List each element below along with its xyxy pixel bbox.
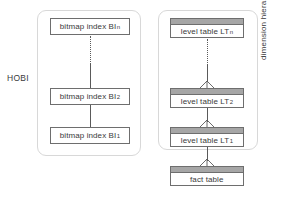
connector-solid-bitmap-2-to-1: [90, 105, 91, 127]
node-level-table-n[interactable]: level table LTn: [170, 18, 244, 38]
crows-foot-icon-fact-table: [199, 159, 215, 167]
crows-foot-icon-level-table-2: [199, 81, 215, 89]
label-dimension-hierarchy: dimension hierarchy: [259, 0, 268, 60]
node-level-table-2[interactable]: level table LT2: [170, 88, 244, 108]
node-label: bitmap index BI: [60, 132, 117, 140]
node-label: level table LT: [181, 98, 229, 106]
node-subscript: 1: [230, 138, 233, 144]
node-subscript: 1: [117, 133, 120, 139]
node-bitmap-index-2[interactable]: bitmap index BI2: [50, 88, 130, 105]
node-bitmap-index-n[interactable]: bitmap index BIn: [50, 18, 130, 35]
diagram-canvas: HOBI dimension hierarchy bitmap index BI…: [0, 0, 292, 198]
node-label: bitmap index BI: [60, 93, 117, 101]
node-subscript: n: [117, 24, 120, 30]
node-label: level table LT: [181, 137, 229, 145]
node-bitmap-index-1[interactable]: bitmap index BI1: [50, 127, 130, 144]
node-subscript: 2: [117, 94, 120, 100]
node-label: fact table: [190, 176, 223, 184]
node-level-table-1[interactable]: level table LT1: [170, 127, 244, 147]
node-subscript: 2: [230, 99, 233, 105]
node-label: bitmap index BI: [60, 23, 117, 31]
connector-dotted-level-table-n-to-2: [207, 39, 208, 65]
connector-solid-bitmap-n-to-2: [90, 64, 91, 88]
label-hobi: HOBI: [7, 73, 29, 83]
table-body: level table LTn: [171, 25, 243, 38]
connector-dotted-bitmap-n-to-2: [90, 36, 91, 64]
node-label: level table LT: [181, 28, 229, 36]
crows-foot-icon-level-table-1: [199, 120, 215, 128]
table-body: level table LT1: [171, 134, 243, 147]
table-body: level table LT2: [171, 95, 243, 108]
table-body: fact table: [171, 173, 243, 186]
connector-solid-level-table-n-to-2: [207, 65, 208, 82]
node-subscript: n: [230, 29, 233, 35]
node-fact-table[interactable]: fact table: [170, 166, 244, 186]
